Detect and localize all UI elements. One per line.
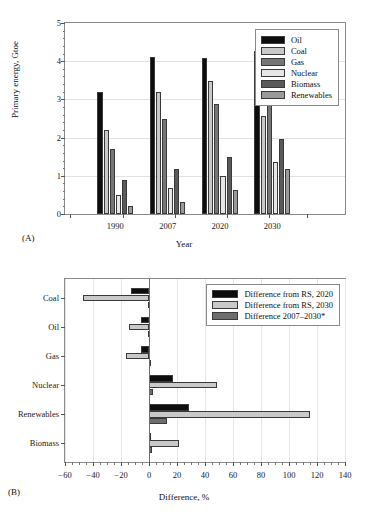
panel-a-bar	[202, 58, 207, 214]
panel-b-x-tick-mark	[121, 462, 122, 466]
panel-b-legend-item: Difference from RS, 2030	[212, 300, 333, 310]
panel-a: Primary energy, Gtoe 012345 199020072020…	[0, 0, 368, 260]
panel-a-bar	[104, 130, 109, 214]
panel-a-bar	[227, 157, 232, 214]
panel-b-x-tick-mark	[261, 462, 262, 466]
panel-b-x-tick-mark	[317, 462, 318, 466]
panel-b-legend-swatch	[212, 301, 238, 309]
panel-b: CoalOilGasNuclearRenewablesBiomass −60−4…	[0, 260, 368, 517]
panel-a-bar	[116, 195, 121, 214]
panel-b-bar	[126, 353, 149, 359]
panel-b-gridline	[345, 279, 346, 462]
panel-a-x-tick-mark	[175, 214, 176, 218]
panel-a-legend-item: Renewables	[261, 90, 332, 100]
panel-b-x-minor-tick	[198, 462, 199, 465]
panel-b-x-minor-tick	[107, 462, 108, 465]
panel-b-x-minor-tick	[247, 462, 248, 465]
panel-b-bar	[141, 346, 149, 352]
panel-b-bar	[83, 295, 150, 301]
panel-a-legend-item: Oil	[261, 35, 332, 45]
panel-a-x-tick-mark	[269, 214, 270, 218]
panel-a-caption: (A)	[22, 233, 35, 243]
panel-a-legend-item: Coal	[261, 46, 332, 56]
panel-a-bar	[150, 57, 155, 214]
panel-a-bar	[122, 180, 127, 214]
panel-b-bar	[131, 288, 149, 294]
panel-b-legend-item: Difference 2007–2030*	[212, 311, 333, 321]
panel-a-x-tick-label: 2020	[211, 214, 228, 231]
panel-a-legend-swatch	[261, 47, 285, 55]
panel-a-bar	[233, 190, 238, 214]
panel-b-x-minor-tick	[135, 462, 136, 465]
panel-b-zero-line	[149, 279, 150, 462]
panel-a-legend: OilCoalGasNuclearBiomassRenewables	[255, 29, 339, 106]
panel-a-x-axis-title: Year	[0, 239, 368, 249]
panel-b-category-tick	[61, 327, 65, 328]
panel-b-x-minor-tick	[254, 462, 255, 465]
panel-a-bar	[279, 139, 284, 214]
panel-b-x-axis-title: Difference, %	[0, 492, 368, 502]
panel-b-legend-label: Difference from RS, 2030	[244, 300, 333, 310]
panel-a-bar	[174, 169, 179, 214]
panel-b-legend-label: Difference 2007–2030*	[244, 311, 325, 321]
panel-a-bar-group	[97, 23, 133, 214]
panel-b-x-tick-mark	[177, 462, 178, 466]
panel-a-bar	[220, 176, 225, 214]
panel-b-legend-item: Difference from RS, 2020	[212, 289, 333, 299]
panel-b-x-minor-tick	[226, 462, 227, 465]
panel-b-x-minor-tick	[170, 462, 171, 465]
panel-a-bar	[97, 92, 102, 214]
panel-a-legend-label: Coal	[291, 46, 307, 56]
panel-b-bar	[149, 382, 217, 388]
panel-a-bar	[156, 92, 161, 214]
panel-b-gridline	[65, 279, 66, 462]
panel-a-legend-label: Biomass	[291, 79, 320, 89]
panel-b-x-minor-tick	[268, 462, 269, 465]
panel-a-legend-item: Nuclear	[261, 68, 332, 78]
panel-b-x-minor-tick	[191, 462, 192, 465]
panel-a-x-tick-label: 2007	[159, 214, 176, 231]
panel-a-bar	[208, 81, 213, 214]
panel-b-x-tick-mark	[93, 462, 94, 466]
panel-b-x-minor-tick	[219, 462, 220, 465]
panel-a-legend-swatch	[261, 58, 285, 66]
panel-a-legend-item: Gas	[261, 57, 332, 67]
panel-a-bar-group	[202, 23, 238, 214]
panel-a-legend-swatch	[261, 80, 285, 88]
panel-b-gridline	[93, 279, 94, 462]
panel-b-x-minor-tick	[282, 462, 283, 465]
panel-b-x-tick-mark	[289, 462, 290, 466]
panel-b-category-tick	[61, 298, 65, 299]
panel-a-x-tick-mark	[307, 214, 308, 218]
panel-b-bar	[149, 404, 189, 410]
panel-b-x-tick-mark	[345, 462, 346, 466]
panel-a-x-tick-mark	[227, 214, 228, 218]
panel-a-bar	[162, 119, 167, 214]
panel-b-category-tick	[61, 356, 65, 357]
panel-a-legend-swatch	[261, 69, 285, 77]
panel-b-x-minor-tick	[100, 462, 101, 465]
panel-a-bar	[267, 104, 272, 214]
panel-b-category-label: Biomass	[30, 438, 65, 448]
panel-b-bar	[149, 440, 179, 446]
panel-a-x-tick-mark	[123, 214, 124, 218]
panel-b-x-minor-tick	[331, 462, 332, 465]
panel-a-legend-label: Nuclear	[291, 68, 318, 78]
panel-a-bar	[110, 149, 115, 214]
panel-b-x-minor-tick	[184, 462, 185, 465]
panel-b-legend-swatch	[212, 312, 238, 320]
panel-b-x-minor-tick	[338, 462, 339, 465]
panel-b-x-tick-mark	[205, 462, 206, 466]
panel-b-x-minor-tick	[86, 462, 87, 465]
panel-b-x-minor-tick	[296, 462, 297, 465]
panel-b-x-tick-mark	[233, 462, 234, 466]
panel-a-legend-swatch	[261, 91, 285, 99]
panel-b-x-minor-tick	[163, 462, 164, 465]
panel-b-gridline	[177, 279, 178, 462]
panel-b-bar	[129, 324, 149, 330]
panel-b-category-tick	[61, 385, 65, 386]
panel-a-bar	[285, 169, 290, 214]
panel-b-x-minor-tick	[156, 462, 157, 465]
panel-a-x-tick-mark	[70, 214, 71, 218]
panel-b-x-minor-tick	[310, 462, 311, 465]
